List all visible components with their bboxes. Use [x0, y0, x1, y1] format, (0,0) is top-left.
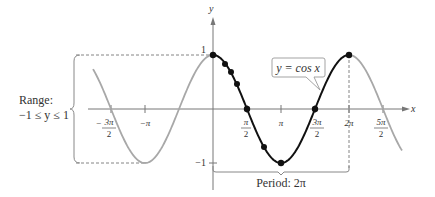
- x-axis-label: x: [410, 103, 416, 114]
- range-brace: [70, 55, 80, 163]
- y-axis-arrow-icon: [211, 17, 216, 25]
- axes: [88, 17, 410, 190]
- svg-text:−: −: [96, 118, 101, 128]
- svg-text:2: 2: [379, 129, 384, 139]
- cosine-graph: y = cos x y x 1 −1 − 3π 2 −π π 2 π 3π 2 …: [0, 0, 435, 197]
- svg-text:2π: 2π: [344, 118, 354, 128]
- svg-text:3π: 3π: [311, 117, 322, 127]
- svg-text:2: 2: [107, 129, 112, 139]
- x-axis-arrow-icon: [402, 107, 410, 112]
- range-value: −1 ≤ y ≤ 1: [19, 108, 69, 122]
- svg-text:2: 2: [244, 129, 249, 139]
- function-label: y = cos x: [275, 61, 320, 75]
- svg-text:−π: −π: [140, 118, 151, 128]
- svg-text:π: π: [244, 117, 249, 127]
- period-label: Period: 2π: [256, 176, 306, 190]
- range-label: Range:: [19, 93, 53, 107]
- y-tick-1: 1: [201, 44, 206, 55]
- y-tick-neg1: −1: [195, 157, 206, 168]
- x-tick-labels: − 3π 2 −π π 2 π 3π 2 2π 5π 2: [96, 117, 388, 139]
- svg-text:3π: 3π: [103, 117, 114, 127]
- svg-text:2: 2: [315, 129, 320, 139]
- period-bracket: [213, 166, 349, 175]
- function-label-callout: y = cos x: [272, 58, 325, 90]
- svg-text:5π: 5π: [376, 117, 386, 127]
- y-axis-label: y: [208, 3, 214, 14]
- svg-text:π: π: [279, 118, 284, 128]
